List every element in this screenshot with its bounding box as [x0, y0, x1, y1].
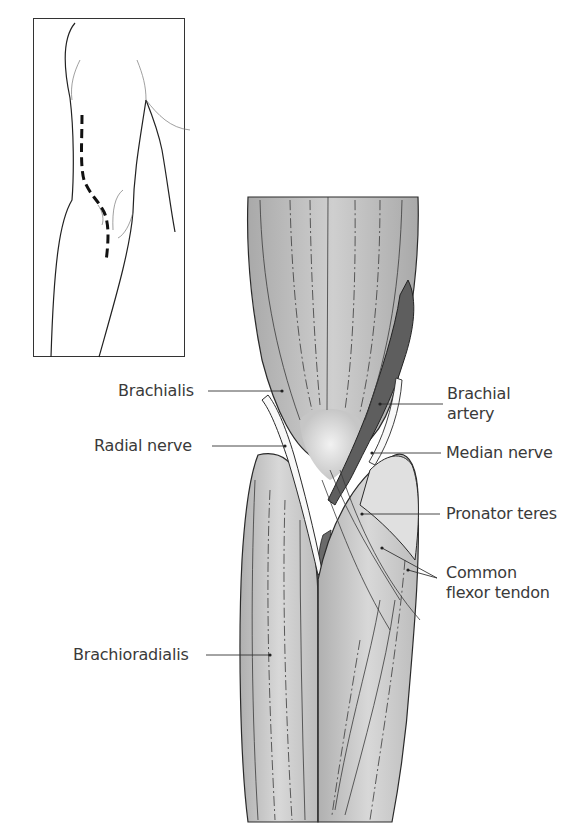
label-brachioradialis: Brachioradialis — [73, 645, 189, 664]
label-brachial-artery-line2: artery — [447, 404, 494, 423]
inset-arm-outline — [51, 23, 190, 357]
label-common-flexor-line1: Common — [446, 563, 517, 582]
label-radial-nerve: Radial nerve — [94, 436, 192, 455]
label-pronator-teres: Pronator teres — [446, 504, 557, 523]
label-brachialis: Brachialis — [118, 381, 194, 400]
label-median-nerve: Median nerve — [446, 443, 553, 462]
label-common-flexor-line2: flexor tendon — [446, 583, 550, 602]
label-brachial-artery-line1: Brachial — [447, 384, 510, 403]
anatomy-illustration — [0, 0, 585, 838]
incision-dashed-line — [82, 115, 109, 262]
